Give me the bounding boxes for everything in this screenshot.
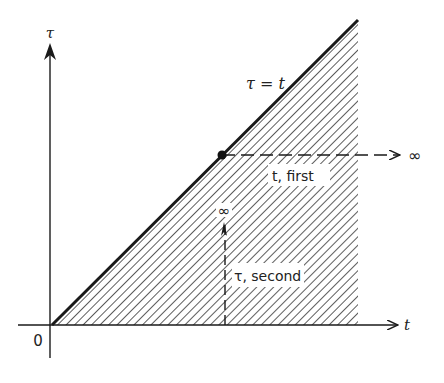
origin-label: 0 [33,332,43,350]
second-integration-label: τ, second [234,268,301,284]
first-integration-label: t, first [272,168,314,184]
intersection-dot [218,151,227,160]
diagonal-label: τ = t [246,74,285,93]
x-axis-label: t [404,316,411,334]
y-axis-label: τ [46,24,55,42]
first-limit-label: ∞ [408,146,421,165]
second-limit-label: ∞ [218,202,231,220]
diagram-canvas: τ t 0 τ = t t, first ∞ τ, second ∞ [0,0,444,383]
